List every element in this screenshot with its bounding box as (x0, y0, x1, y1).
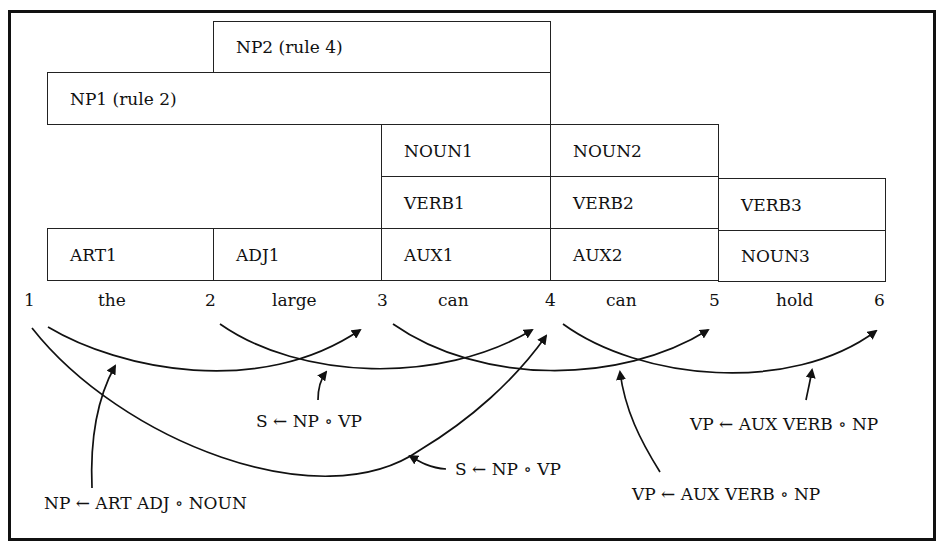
arc-1-4 (32, 328, 546, 476)
pointer-np-rule (92, 366, 115, 488)
rule-label-s-np-vp-2: S ← NP ∘ VP (455, 459, 561, 479)
rule-label-vp-aux-verb-np-2: VP ← AUX VERB ∘ NP (690, 414, 878, 434)
pointer-vp-rule-2 (806, 370, 812, 400)
rule-label-s-np-vp-1: S ← NP ∘ VP (256, 411, 362, 431)
pointer-s-rule-1 (318, 372, 326, 400)
arc-1-3 (48, 327, 360, 371)
pointer-vp-rule-1 (620, 372, 660, 472)
arc-2-4 (220, 324, 532, 369)
rule-label-vp-aux-verb-np-1: VP ← AUX VERB ∘ NP (632, 484, 820, 504)
pointer-s-rule-2 (410, 456, 446, 469)
rule-label-np-art-adj-noun: NP ← ART ADJ ∘ NOUN (44, 493, 247, 513)
